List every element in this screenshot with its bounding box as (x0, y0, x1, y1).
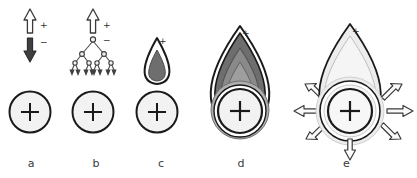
negative-sign-b: − (103, 35, 111, 45)
positive-sign-c: + (159, 36, 167, 46)
panel-d: + d (192, 0, 290, 178)
positive-sign-b: + (103, 20, 111, 30)
up-arrow-positive-icon (87, 9, 99, 33)
panel-c-graphic: + (130, 0, 192, 178)
panel-d-graphic: + (192, 0, 290, 178)
panel-e: + e (290, 0, 417, 178)
positive-sign-a: + (40, 20, 48, 30)
negative-sign-a: − (40, 37, 48, 47)
panel-e-graphic: + (290, 0, 417, 178)
down-arrow-negative-icon (24, 38, 36, 62)
charged-particle-e (328, 89, 372, 133)
panel-a: + − a (0, 0, 62, 178)
charged-particle-c (137, 92, 178, 133)
panel-label-a: a (0, 157, 62, 170)
charged-particle-d (218, 89, 262, 133)
panel-label-b: b (62, 157, 130, 170)
panel-b: + (62, 0, 130, 178)
panel-label-c: c (130, 157, 192, 170)
panel-c: + c (130, 0, 192, 178)
panel-a-graphic: + − (0, 0, 62, 178)
positive-sign-d: + (242, 28, 250, 38)
up-arrow-positive-icon (24, 9, 36, 33)
charged-particle-b (73, 92, 114, 133)
figure-canvas: + − a + (0, 0, 417, 178)
panel-label-d: d (192, 157, 290, 170)
positive-sign-e: + (352, 26, 360, 36)
panel-label-e: e (283, 157, 410, 170)
panel-b-graphic: + (62, 0, 130, 178)
charged-particle-a (10, 92, 51, 133)
